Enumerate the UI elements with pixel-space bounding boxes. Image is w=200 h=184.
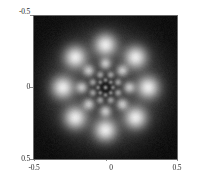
x-axis-tick-label-left: -0.5: [20, 164, 48, 172]
y-axis-tick-label-bottom: 0.5: [2, 155, 30, 163]
y-axis-tick-label-middle: 0: [2, 83, 30, 91]
plot-area: [33, 15, 178, 160]
x-axis-tick-label-right: 0.5: [163, 164, 191, 172]
y-axis-tick-label-top: -0.5: [2, 8, 30, 16]
diffraction-pattern-image: [34, 16, 177, 159]
x-axis-tick-label-middle: 0: [97, 164, 125, 172]
figure-container: -0.5 0 0.5 -0.5 0 0.5: [0, 0, 200, 184]
